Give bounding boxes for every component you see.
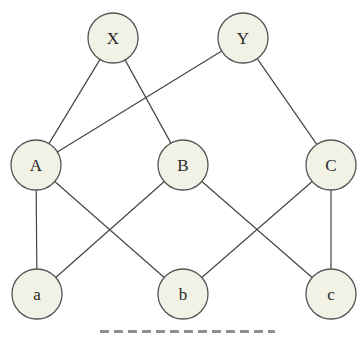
node-group: XYABCabc [11,13,356,319]
node-label: a [33,285,41,304]
node-a: a [12,269,62,319]
node-label: B [177,156,188,175]
node-B: B [158,140,208,190]
node-label: C [325,156,336,175]
node-Y: Y [218,13,268,63]
node-b: b [158,269,208,319]
node-label: c [327,285,335,304]
diagram-canvas: XYABCabc [0,0,363,338]
node-label: A [30,156,43,175]
node-C: C [306,140,356,190]
edge-A-a [36,190,37,269]
node-label: Y [237,29,249,48]
edge-X-B [125,60,171,143]
node-label: b [179,285,188,304]
edge-Y-C [257,59,317,145]
node-label: X [107,29,119,48]
layered-graph: XYABCabc [0,0,363,338]
node-c: c [306,269,356,319]
node-A: A [11,140,61,190]
figure-caption-clipped [0,330,363,338]
edge-Y-A [57,51,221,152]
caption-glyph-tops [100,330,275,333]
node-X: X [88,13,138,63]
